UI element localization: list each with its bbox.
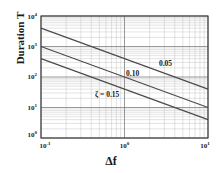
annotation-0.15: ζ = 0.15 [95,90,119,99]
tick-label: 102 [28,72,38,81]
tick-label: 100 [28,130,38,139]
tick-label: 103 [28,42,38,51]
tick-label: 104 [28,12,38,21]
tick-label: 100 [120,141,130,150]
tick-label: 101 [200,141,210,150]
y-axis-title: Duration T [14,0,26,93]
x-axis-title: Δf [0,154,222,169]
chart-container: 10-1100101104103102101100 0.050.10ζ = 0.… [0,0,222,173]
annotation-0.10: 0.10 [126,69,139,78]
annotation-0.05: 0.05 [159,59,172,68]
log-log-plot: 10-1100101104103102101100 0.050.10ζ = 0.… [0,0,222,173]
tick-label: 101 [28,103,38,112]
tick-label: 10-1 [39,141,51,150]
